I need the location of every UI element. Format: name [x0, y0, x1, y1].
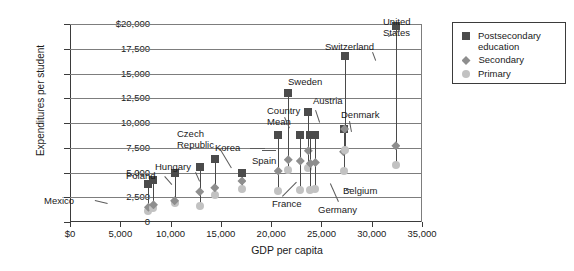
- x-tick-mark: [171, 222, 172, 227]
- x-tick-mark: [120, 222, 121, 227]
- post-square-icon[interactable]: [196, 163, 204, 171]
- x-tick-mark: [372, 222, 373, 227]
- post-square-icon[interactable]: [304, 108, 312, 116]
- secondary-diamond-icon: [462, 56, 471, 65]
- primary-circle-icon[interactable]: [196, 202, 204, 210]
- x-axis-title: GDP per capita: [0, 244, 574, 256]
- point-stem: [278, 135, 279, 190]
- x-tick-mark: [271, 222, 272, 227]
- post-square-icon[interactable]: [284, 89, 292, 97]
- post-square-icon[interactable]: [311, 131, 319, 139]
- legend-label-secondary: Secondary: [479, 54, 524, 65]
- gridline: [70, 148, 422, 149]
- annotation-label: Mexico: [44, 196, 74, 207]
- point-stem: [200, 167, 201, 206]
- leader-line: [250, 148, 265, 149]
- primary-circle-icon[interactable]: [274, 187, 282, 195]
- annotation-label: Denmark: [341, 110, 380, 121]
- x-tick-mark: [321, 222, 322, 227]
- primary-circle-icon[interactable]: [392, 161, 400, 169]
- gridline: [70, 123, 422, 124]
- point-stem: [345, 56, 346, 150]
- point-stem: [308, 112, 309, 167]
- legend-item-secondary[interactable]: Secondary: [462, 54, 524, 65]
- chart-root: Expenditures per student GDP per capita …: [0, 0, 574, 271]
- legend-label-primary: Primary: [478, 68, 511, 79]
- primary-circle-icon[interactable]: [340, 167, 348, 175]
- leader-line: [346, 189, 353, 190]
- annotation-label: France: [272, 199, 302, 210]
- x-tick-mark: [70, 222, 71, 227]
- post-square-icon[interactable]: [296, 131, 304, 139]
- annotation-label: United States: [383, 17, 410, 38]
- annotation-label: Austria: [313, 96, 343, 107]
- legend: Postsecondary education Secondary Primar…: [452, 22, 566, 84]
- x-tick-mark: [422, 222, 423, 227]
- legend-label-postsecondary: Postsecondary education: [478, 30, 565, 52]
- x-tick-label: 35,000: [387, 229, 457, 239]
- annotation-label: Spain: [252, 156, 276, 167]
- gridline: [70, 98, 422, 99]
- annotation-label: Belgium: [343, 186, 377, 197]
- post-square-icon: [462, 32, 470, 40]
- gridline: [70, 173, 422, 174]
- post-square-icon[interactable]: [238, 169, 246, 177]
- annotation-label: Poland: [126, 171, 156, 182]
- gridline: [70, 74, 422, 75]
- legend-item-primary[interactable]: Primary: [462, 68, 511, 79]
- annotation-label: Germany: [318, 205, 357, 216]
- annotation-label: Switzerland: [325, 42, 374, 53]
- post-square-icon[interactable]: [211, 155, 219, 163]
- leader-line: [262, 150, 276, 151]
- post-square-icon[interactable]: [274, 131, 282, 139]
- primary-circle-icon[interactable]: [284, 166, 292, 174]
- x-tick-mark: [221, 222, 222, 227]
- annotation-label: Hungary: [155, 162, 191, 173]
- annotation-label: Sweden: [288, 77, 322, 88]
- legend-item-postsecondary[interactable]: Postsecondary education: [462, 30, 565, 52]
- gridline: [70, 197, 422, 198]
- annotation-label: Czech Republic: [177, 129, 214, 150]
- primary-circle-icon[interactable]: [341, 146, 349, 154]
- primary-circle-icon: [462, 70, 470, 78]
- gridline: [70, 24, 422, 25]
- post-square-icon[interactable]: [341, 52, 349, 60]
